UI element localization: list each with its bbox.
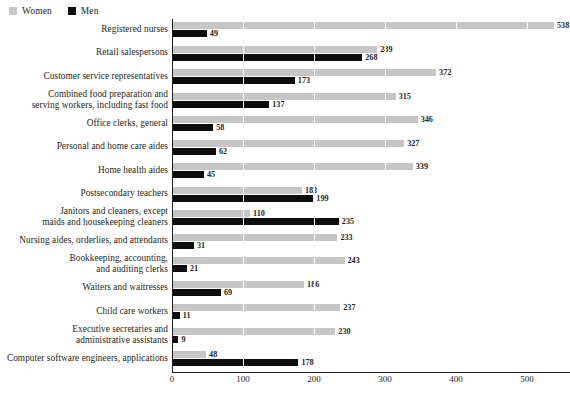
bar-men: [172, 124, 213, 131]
category-label-line: Home health aides: [0, 165, 168, 176]
bar-men: [172, 312, 180, 319]
bar-group: Customer service representatives372173: [0, 69, 570, 84]
bar-value-women: 237: [343, 304, 355, 311]
bar-men: [172, 359, 298, 366]
bar-women: [172, 69, 436, 76]
category-label-line: Bookkeeping, accounting,: [0, 253, 168, 264]
bar-women: [172, 304, 340, 311]
category-label: Nursing aides, orderlies, and attendants: [0, 235, 168, 246]
bar-group: Office clerks, general34658: [0, 116, 570, 131]
legend-label-men: Men: [81, 6, 99, 16]
category-label: Waiters and waitresses: [0, 282, 168, 293]
category-label: Executive secretaries andadministrative …: [0, 324, 168, 345]
category-label-line: Personal and home care aides: [0, 141, 168, 152]
bar-men: [172, 30, 207, 37]
gridline-100: [243, 19, 244, 372]
bar-value-men: 45: [207, 171, 215, 178]
category-label: Retail salespersons: [0, 47, 168, 58]
x-axis-line: [172, 372, 570, 373]
bar-group: Retail salespersons289268: [0, 46, 570, 61]
bar-chart: Women Men Registered nurses53849Retail s…: [0, 0, 570, 399]
category-label: Computer software engineers, application…: [0, 353, 168, 364]
category-label-line: serving workers, including fast food: [0, 100, 168, 111]
gridline-500: [527, 19, 528, 372]
bar-men: [172, 289, 221, 296]
bar-value-men: 62: [219, 148, 227, 155]
x-tick-label-100: 100: [236, 374, 250, 385]
category-label: Registered nurses: [0, 24, 168, 35]
bar-group: Computer software engineers, application…: [0, 351, 570, 366]
category-label: Janitors and cleaners, exceptmaids and h…: [0, 206, 168, 227]
bar-value-women: 110: [253, 210, 265, 217]
bar-women: [172, 187, 302, 194]
bar-value-men: 21: [190, 265, 198, 272]
bar-group: Postsecondary teachers183199: [0, 187, 570, 202]
category-label-line: administrative assistants: [0, 335, 168, 346]
bar-group: Waiters and waitresses18669: [0, 281, 570, 296]
bar-men: [172, 148, 216, 155]
bar-value-women: 327: [407, 140, 419, 147]
legend-item-men: Men: [68, 6, 99, 16]
category-label: Home health aides: [0, 165, 168, 176]
bar-group: Child care workers23711: [0, 304, 570, 319]
category-label-line: Waiters and waitresses: [0, 282, 168, 293]
bar-group: Executive secretaries andadministrative …: [0, 328, 570, 343]
bar-value-men: 178: [301, 359, 313, 366]
square-swatch-icon-women: [9, 7, 17, 15]
bar-value-men: 173: [298, 77, 310, 84]
gridline-200: [314, 19, 315, 372]
bar-women: [172, 234, 337, 241]
category-label-line: Customer service representatives: [0, 71, 168, 82]
plot-area: Registered nurses53849Retail salesperson…: [0, 19, 570, 374]
category-label-line: Combined food preparation and: [0, 89, 168, 100]
bar-women: [172, 46, 377, 53]
category-label-line: and auditing clerks: [0, 264, 168, 275]
gridline-0: [172, 19, 173, 372]
x-tick-label-300: 300: [378, 374, 392, 385]
category-label-line: Office clerks, general: [0, 118, 168, 129]
bar-value-women: 183: [305, 187, 317, 194]
category-label: Personal and home care aides: [0, 141, 168, 152]
bar-value-men: 58: [216, 124, 224, 131]
category-label-line: Computer software engineers, application…: [0, 353, 168, 364]
category-label: Bookkeeping, accounting,and auditing cle…: [0, 253, 168, 274]
bar-value-women: 48: [209, 351, 217, 358]
bar-group: Bookkeeping, accounting,and auditing cle…: [0, 257, 570, 272]
bar-value-women: 289: [380, 46, 392, 53]
category-label-line: Retail salespersons: [0, 47, 168, 58]
bar-men: [172, 101, 269, 108]
bar-group: Registered nurses53849: [0, 22, 570, 37]
bar-men: [172, 54, 362, 61]
gridline-300: [385, 19, 386, 372]
bar-group: Personal and home care aides32762: [0, 140, 570, 155]
bar-women: [172, 22, 554, 29]
category-label-line: Janitors and cleaners, except: [0, 206, 168, 217]
bar-value-men: 199: [316, 195, 328, 202]
bar-group: Janitors and cleaners, exceptmaids and h…: [0, 210, 570, 225]
category-label-line: Postsecondary teachers: [0, 188, 168, 199]
category-label: Postsecondary teachers: [0, 188, 168, 199]
category-label: Office clerks, general: [0, 118, 168, 129]
legend-item-women: Women: [9, 6, 52, 16]
bar-women: [172, 140, 404, 147]
legend-label-women: Women: [22, 6, 52, 16]
bar-value-men: 137: [272, 101, 284, 108]
category-label-line: Executive secretaries and: [0, 324, 168, 335]
gridline-400: [456, 19, 457, 372]
bar-value-women: 315: [399, 93, 411, 100]
bar-value-women: 339: [416, 163, 428, 170]
bar-value-men: 49: [210, 30, 218, 37]
bar-value-women: 346: [421, 116, 433, 123]
category-label-line: Registered nurses: [0, 24, 168, 35]
bar-women: [172, 351, 206, 358]
bar-value-women: 372: [439, 69, 451, 76]
bar-women: [172, 257, 345, 264]
bar-men: [172, 242, 194, 249]
category-label: Child care workers: [0, 306, 168, 317]
bar-women: [172, 210, 250, 217]
bar-women: [172, 328, 335, 335]
bar-men: [172, 171, 204, 178]
chart-legend: Women Men: [9, 3, 99, 19]
bar-value-women: 243: [348, 257, 360, 264]
square-swatch-icon-men: [68, 7, 76, 15]
